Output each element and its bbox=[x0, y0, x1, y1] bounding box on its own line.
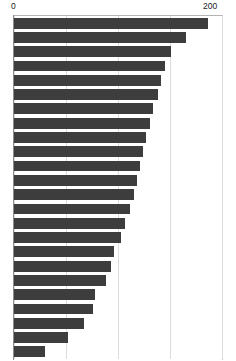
bar-row bbox=[14, 218, 222, 229]
bars-container bbox=[14, 16, 222, 359]
bar-row bbox=[14, 346, 222, 357]
bar bbox=[14, 332, 68, 343]
bar-row bbox=[14, 304, 222, 315]
bar bbox=[14, 61, 165, 72]
bar bbox=[14, 232, 121, 243]
bar-row bbox=[14, 146, 222, 157]
bar bbox=[14, 289, 95, 300]
axis-tick-label-max: 200 bbox=[203, 1, 217, 11]
bar-row bbox=[14, 89, 222, 100]
gridline bbox=[222, 16, 223, 359]
bar bbox=[14, 175, 137, 186]
bar-row bbox=[14, 275, 222, 286]
bar bbox=[14, 89, 158, 100]
bar-row bbox=[14, 61, 222, 72]
bar-row bbox=[14, 46, 222, 57]
bar bbox=[14, 46, 171, 57]
bar bbox=[14, 275, 106, 286]
bar bbox=[14, 118, 150, 129]
bar-row bbox=[14, 175, 222, 186]
bar-row bbox=[14, 246, 222, 257]
bar-row bbox=[14, 232, 222, 243]
axis-tick-label-min: 0 bbox=[11, 1, 16, 11]
bar-row bbox=[14, 132, 222, 143]
bar bbox=[14, 246, 114, 257]
axis-tick-labels: 0 200 bbox=[0, 0, 236, 16]
bar bbox=[14, 204, 130, 215]
bar bbox=[14, 103, 153, 114]
bar-row bbox=[14, 261, 222, 272]
bar bbox=[14, 32, 186, 43]
bar bbox=[14, 161, 140, 172]
bar bbox=[14, 318, 84, 329]
bar-row bbox=[14, 118, 222, 129]
bar bbox=[14, 261, 111, 272]
bar-row bbox=[14, 204, 222, 215]
bar bbox=[14, 75, 161, 86]
bar-row bbox=[14, 161, 222, 172]
bar-row bbox=[14, 75, 222, 86]
bar-chart: 0 200 bbox=[0, 0, 236, 361]
bar-row bbox=[14, 189, 222, 200]
bar-row bbox=[14, 18, 222, 29]
bar-row bbox=[14, 318, 222, 329]
bar bbox=[14, 18, 208, 29]
bar bbox=[14, 146, 143, 157]
bar-row bbox=[14, 289, 222, 300]
bar bbox=[14, 304, 93, 315]
plot-area bbox=[14, 16, 222, 359]
bar-row bbox=[14, 103, 222, 114]
bar-row bbox=[14, 332, 222, 343]
bar bbox=[14, 346, 45, 357]
bar-row bbox=[14, 32, 222, 43]
bar bbox=[14, 132, 146, 143]
bar bbox=[14, 189, 134, 200]
bar bbox=[14, 218, 125, 229]
